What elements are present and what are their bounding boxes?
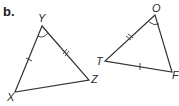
- triangle-xyz-edges: [15, 26, 89, 92]
- vertex-label-t: T: [96, 55, 104, 67]
- vertex-label-o: O: [152, 2, 161, 14]
- part-label: b.: [3, 4, 15, 19]
- diagram-svg: b. Y X Z O T F: [0, 0, 179, 106]
- vertex-label-y: Y: [38, 12, 46, 24]
- triangle-otf-edges: [105, 15, 172, 72]
- triangle-xyz: Y X Z: [6, 12, 99, 103]
- vertex-label-z: Z: [90, 73, 99, 85]
- vertex-label-x: X: [6, 91, 15, 103]
- triangle-otf: O T F: [96, 2, 179, 81]
- vertex-label-f: F: [172, 69, 179, 81]
- congruence-diagram: b. Y X Z O T F: [0, 0, 179, 106]
